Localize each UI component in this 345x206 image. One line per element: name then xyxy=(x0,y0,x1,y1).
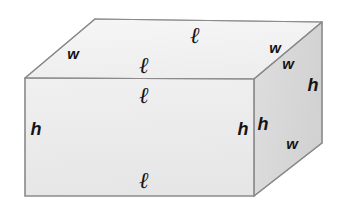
height-label-front-left: h xyxy=(31,120,42,138)
width-label-right-bottom: w xyxy=(286,136,298,151)
length-label-front-top-below: ℓ xyxy=(139,83,148,106)
width-label-top-right-upper: w xyxy=(269,40,281,55)
prism-figure-stage: ℓ ℓ ℓ ℓ w w w w h h h h xyxy=(0,0,345,206)
height-label-front-right: h xyxy=(238,120,249,138)
width-label-top-left: w xyxy=(67,46,79,61)
rectangular-prism-drawing xyxy=(0,0,345,206)
length-label-front-bottom: ℓ xyxy=(139,168,148,191)
width-label-top-right-lower: w xyxy=(282,56,294,71)
length-label-top-front-above: ℓ xyxy=(139,53,148,76)
length-label-top-face: ℓ xyxy=(190,23,199,46)
height-label-right-left: h xyxy=(258,115,269,133)
height-label-right-back: h xyxy=(308,76,319,94)
